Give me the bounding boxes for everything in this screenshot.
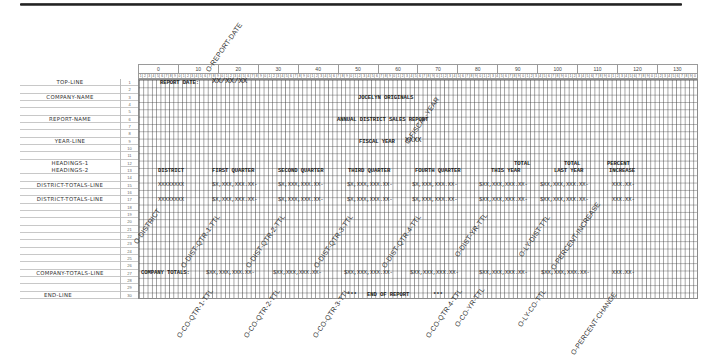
company-q4-mask: $XX,XXX,XXX.XX- — [410, 269, 459, 276]
label-year-line: YEAR-LINE — [20, 138, 120, 145]
column-group-90: 90 — [497, 65, 537, 73]
label-report-name: REPORT-NAME — [20, 116, 120, 123]
company-q2-mask: $XX,XXX,XXX.XX- — [273, 269, 322, 276]
row-number: 11 — [121, 152, 138, 159]
row-number: 10 — [121, 145, 138, 152]
row-number: 5 — [121, 108, 138, 115]
district-pct-mask-1: XXX.XX- — [612, 181, 635, 188]
district-yr-mask-1: $XX,XXX,XXX.XX- — [479, 181, 528, 188]
label-headings-2: HEADINGS-2 — [20, 167, 120, 174]
row-number: 9 — [121, 138, 138, 145]
column-digit: 0 — [692, 74, 696, 78]
row-number: 7 — [121, 123, 138, 130]
column-group-110: 110 — [577, 65, 617, 73]
column-group-40: 40 — [298, 65, 338, 73]
label-company-totals: COMPANY-TOTALS-LINE — [20, 270, 120, 277]
district-mask-1: XXXXXXXX — [158, 181, 184, 188]
column-group-30: 30 — [258, 65, 298, 73]
column-group-60: 60 — [378, 65, 418, 73]
district-yr-mask-2: $XX,XXX,XXX.XX- — [479, 196, 528, 203]
row-number: 8 — [121, 130, 138, 137]
row-number: 26 — [121, 262, 138, 269]
label-district-totals-2: DISTRICT-TOTALS-LINE — [20, 196, 120, 203]
row-number: 21 — [121, 226, 138, 233]
printer-spacing-chart: TOP-LINE COMPANY-NAME REPORT-NAME YEAR-L… — [0, 0, 701, 363]
row-number: 16 — [121, 189, 138, 196]
district-pct-mask-2: XXX.XX- — [612, 196, 635, 203]
heading-q4: FOURTH QUARTER — [415, 167, 461, 174]
district-q1-mask-2: $X,XXX,XXX.XX- — [212, 196, 258, 203]
company-yr-mask: $XX,XXX,XXX.XX- — [479, 269, 528, 276]
district-q2-mask-2: $X,XXX,XXX.XX- — [278, 196, 324, 203]
district-mask-2: XXXXXXXX — [158, 196, 184, 203]
row-number: 12 — [121, 160, 138, 167]
column-group-130: 130 — [657, 65, 697, 73]
heading-q3: THIRD QUARTER — [348, 167, 390, 174]
row-number: 25 — [121, 255, 138, 262]
row-number: 13 — [121, 167, 138, 174]
column-group-100: 100 — [537, 65, 577, 73]
row-number: 6 — [121, 116, 138, 123]
heading-q1: FIRST QUARTER — [212, 167, 254, 174]
column-group-50: 50 — [338, 65, 378, 73]
record-labels: TOP-LINE COMPANY-NAME REPORT-NAME YEAR-L… — [20, 79, 120, 299]
label-headings-1: HEADINGS-1 — [20, 160, 120, 167]
heading-increase: INCREASE — [609, 167, 635, 174]
column-group-0: 0 — [139, 65, 178, 73]
label-top-line: TOP-LINE — [20, 79, 120, 86]
row-number: 2 — [121, 86, 138, 93]
column-group-80: 80 — [457, 65, 497, 73]
district-q1-mask-1: $X,XXX,XXX.XX- — [212, 181, 258, 188]
company-q3-mask: $XX,XXX,XXX.XX- — [344, 269, 393, 276]
heading-district: DISTRICT — [158, 167, 184, 174]
grid-cells — [138, 79, 698, 299]
heading-q2: SECOND QUARTER — [278, 167, 324, 174]
company-name-text: JOCELYN ORIGINALS — [358, 94, 413, 101]
district-q3-mask-2: $X,XXX,XXX.XX- — [347, 196, 393, 203]
annotation-percent-change: O-PERCENT-CHANGE — [569, 291, 618, 356]
company-pct-mask: XXX.XX- — [612, 269, 635, 276]
district-ly-mask-1: $XX,XXX,XXX.XX- — [540, 181, 589, 188]
district-q3-mask-1: $X,XXX,XXX.XX- — [347, 181, 393, 188]
row-number: 29 — [121, 284, 138, 291]
row-number: 15 — [121, 182, 138, 189]
row-number: 17 — [121, 196, 138, 203]
report-name-text: ANNUAL DISTRICT SALES REPORT — [337, 116, 428, 123]
end-stars-right: *** — [433, 291, 443, 298]
district-ly-mask-2: $XX,XXX,XXX.XX- — [540, 196, 589, 203]
district-q4-mask-1: $X,XXX,XXX.XX- — [412, 181, 458, 188]
row-number: 28 — [121, 277, 138, 284]
company-ly-mask: $XX,XXX,XXX.XX- — [541, 269, 590, 276]
row-numbers: 1234567891011121314151617181920212223242… — [120, 79, 138, 299]
label-end-line: END-LINE — [20, 292, 120, 299]
heading1-total-this: TOTAL — [514, 160, 530, 167]
row-number: 14 — [121, 174, 138, 181]
label-company-name: COMPANY-NAME — [20, 94, 120, 101]
row-number: 30 — [121, 292, 138, 299]
row-number: 20 — [121, 218, 138, 225]
row-number: 18 — [121, 204, 138, 211]
top-rule — [20, 3, 682, 6]
heading1-total-last: TOTAL — [564, 160, 580, 167]
district-q2-mask-1: $X,XXX,XXX.XX- — [278, 181, 324, 188]
row-number: 19 — [121, 211, 138, 218]
column-group-header: 0102030405060708090100110120130 — [138, 64, 698, 73]
row-number: 4 — [121, 101, 138, 108]
column-group-70: 70 — [417, 65, 457, 73]
district-q4-mask-2: $X,XXX,XXX.XX- — [412, 196, 458, 203]
fiscal-year-label: FISCAL YEAR — [359, 138, 395, 145]
label-district-totals-1: DISTRICT-TOTALS-LINE — [20, 182, 120, 189]
heading-this-year: THIS YEAR — [491, 167, 520, 174]
column-group-20: 20 — [218, 65, 258, 73]
row-number: 3 — [121, 94, 138, 101]
row-number: 27 — [121, 270, 138, 277]
company-q1-mask: $XX,XXX,XXX.XX- — [206, 269, 255, 276]
row-number: 1 — [121, 79, 138, 86]
company-totals-label: COMPANY TOTALS: — [141, 269, 190, 276]
report-date-mask: XX/XX/XX — [212, 78, 247, 85]
report-date-label: REPORT DATE: — [160, 79, 199, 86]
row-number: 24 — [121, 248, 138, 255]
column-group-120: 120 — [617, 65, 657, 73]
end-of-report-text: END OF REPORT — [367, 291, 409, 298]
heading1-percent: PERCENT — [607, 160, 630, 167]
